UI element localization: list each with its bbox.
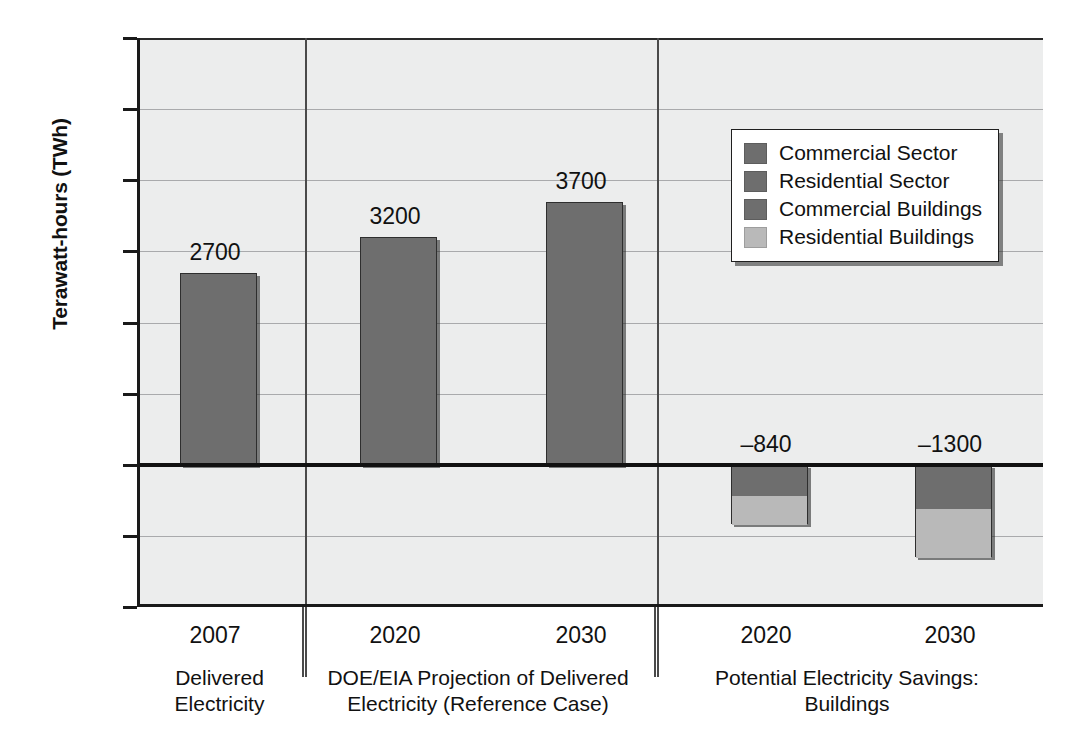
bar[interactable]: [180, 273, 257, 465]
legend-item[interactable]: Commercial Buildings: [744, 195, 982, 223]
group-caption-line: Potential Electricity Savings:: [634, 665, 1060, 691]
legend-item[interactable]: Residential Sector: [744, 167, 982, 195]
bar-value-label: 2700: [117, 239, 314, 266]
y-axis-tick: [123, 535, 137, 538]
gridline: [140, 536, 1043, 537]
legend-label: Residential Sector: [779, 169, 949, 193]
group-separator: [305, 38, 307, 677]
y-axis-title: Terawatt-hours (TWh): [48, 54, 72, 394]
group-caption: Potential Electricity Savings:Buildings: [634, 665, 1060, 716]
y-axis-tick: [123, 179, 137, 182]
x-axis-tick-label: 2030: [483, 622, 680, 649]
bar[interactable]: [731, 465, 808, 525]
bar-segment: [916, 466, 991, 509]
group-caption-line: Electricity (Reference Case): [282, 691, 674, 717]
chart-figure: Terawatt-hours (TWh) Commercial Sector R…: [0, 0, 1067, 738]
group-separator-tail: [302, 607, 304, 677]
bar-value-label: –840: [668, 431, 865, 458]
y-axis-tick: [123, 393, 137, 396]
bar-segment: [361, 238, 436, 352]
bar-segment: [181, 370, 256, 466]
legend-label: Commercial Buildings: [779, 197, 982, 221]
bar-segment: [732, 496, 807, 525]
chart-legend: Commercial Sector Residential Sector Com…: [731, 129, 999, 262]
group-separator: [657, 38, 659, 677]
x-axis-tick-label: 2030: [852, 622, 1049, 649]
group-caption-line: DOE/EIA Projection of Delivered: [282, 665, 674, 691]
legend-item[interactable]: Commercial Sector: [744, 139, 982, 167]
plot-area: [137, 38, 1043, 607]
y-axis-tick: [123, 37, 137, 40]
legend-swatch-residential-buildings: [744, 227, 767, 248]
legend-swatch-commercial-sector: [744, 143, 767, 164]
bar[interactable]: [915, 465, 992, 557]
x-axis-tick-label: 2007: [117, 622, 314, 649]
legend-swatch-residential-sector: [744, 171, 767, 192]
bar-value-label: –1300: [852, 431, 1049, 458]
bar-segment: [361, 352, 436, 466]
bar-value-label: 3700: [483, 168, 680, 195]
bar-segment: [181, 274, 256, 370]
group-caption: DOE/EIA Projection of DeliveredElectrici…: [282, 665, 674, 716]
x-axis-tick-label: 2020: [668, 622, 865, 649]
bar-segment: [547, 334, 622, 466]
legend-swatch-commercial-buildings: [744, 199, 767, 220]
x-axis-tick-label: 2020: [297, 622, 494, 649]
group-separator-tail: [654, 607, 656, 677]
y-axis-tick: [123, 606, 137, 609]
legend-label: Residential Buildings: [779, 225, 974, 249]
gridline: [140, 604, 1043, 607]
y-axis-tick: [123, 464, 137, 467]
bar-value-label: 3200: [297, 203, 494, 230]
zero-axis-line: [140, 463, 1043, 467]
y-axis-tick: [123, 322, 137, 325]
gridline: [140, 38, 1043, 40]
bar-segment: [916, 509, 991, 558]
legend-label: Commercial Sector: [779, 141, 958, 165]
gridline: [140, 109, 1043, 110]
group-caption-line: Buildings: [634, 691, 1060, 717]
y-axis-tick: [123, 108, 137, 111]
bar-segment: [732, 466, 807, 497]
bar[interactable]: [360, 237, 437, 465]
bar[interactable]: [546, 202, 623, 465]
bar-segment: [547, 203, 622, 335]
legend-item[interactable]: Residential Buildings: [744, 223, 982, 251]
